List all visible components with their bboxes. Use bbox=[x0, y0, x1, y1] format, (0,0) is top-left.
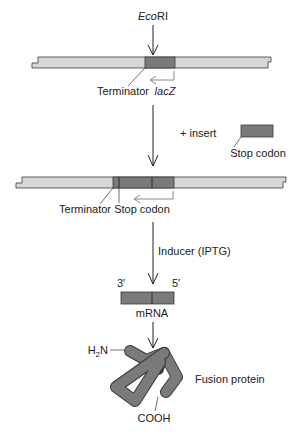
mrna-strand bbox=[121, 292, 174, 304]
mrna-3prime-label: 3′ bbox=[117, 277, 125, 289]
cloning-diagram: EcoRI Terminator lacZ + insert Stop codo… bbox=[0, 0, 302, 436]
lacz-direction-arrow-mid-icon bbox=[134, 191, 173, 203]
insert-stop-codon-label: Stop codon bbox=[230, 147, 286, 159]
insert-pointer bbox=[234, 137, 241, 147]
fusion-protein-label: Fusion protein bbox=[195, 373, 265, 385]
plus-insert-label: + insert bbox=[180, 127, 216, 139]
stop-codon-label-mid: Stop codon bbox=[114, 203, 170, 215]
lacz-segment bbox=[145, 57, 175, 68]
lacz-label: lacZ bbox=[155, 85, 177, 97]
lacz-direction-arrow-icon bbox=[150, 71, 174, 84]
mrna-label: mRNA bbox=[136, 307, 169, 319]
ecori-label: EcoRI bbox=[138, 10, 168, 22]
terminator-label-top: Terminator bbox=[97, 85, 149, 97]
terminator-pointer bbox=[128, 68, 145, 86]
induction-arrow-icon bbox=[148, 222, 158, 284]
c-terminus-pointer bbox=[155, 397, 158, 411]
inducer-label: Inducer (IPTG) bbox=[158, 245, 231, 257]
n-terminus-label: H2N bbox=[88, 344, 108, 359]
vector-dna-strip-top bbox=[32, 57, 271, 68]
fusion-protein-ribbon bbox=[116, 351, 177, 401]
ligation-arrow-icon bbox=[148, 105, 158, 166]
terminator-label-mid: Terminator bbox=[59, 203, 111, 215]
vector-dna-strip-recombinant bbox=[16, 177, 286, 188]
c-terminus-label: COOH bbox=[138, 412, 171, 424]
insert-fragment bbox=[241, 125, 273, 137]
mrna-5prime-label: 5′ bbox=[172, 277, 180, 289]
ecori-arrow-icon bbox=[148, 25, 158, 55]
terminator-pointer-mid bbox=[100, 188, 113, 204]
translation-arrow-icon bbox=[148, 322, 158, 348]
